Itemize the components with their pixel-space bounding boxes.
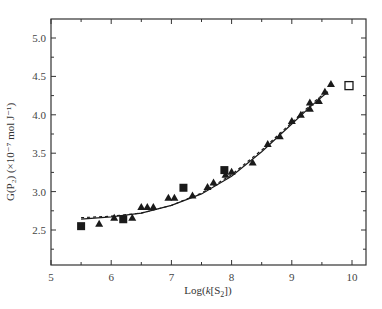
dashed-fit-line: [81, 90, 328, 218]
plot-border: [51, 19, 366, 265]
triangle-marker: [95, 220, 103, 227]
fit-line: [81, 92, 328, 219]
x-axis-title: Log(k[S2]): [184, 284, 232, 299]
filled-square-marker: [77, 222, 85, 230]
filled-square-marker: [119, 215, 127, 223]
x-tick-label: 7: [169, 271, 175, 283]
filled-square-marker: [179, 184, 187, 192]
x-tick-label: 6: [108, 271, 114, 283]
triangle-marker: [306, 99, 314, 106]
fit-curves: [81, 90, 328, 219]
chart: 56789102.53.03.54.04.55.0 Log(k[S2]) G(P…: [0, 0, 382, 309]
triangle-marker: [228, 168, 236, 175]
y-tick-label: 5.0: [32, 32, 46, 44]
y-tick-label: 4.0: [32, 109, 46, 121]
triangle-marker: [210, 178, 218, 185]
axis-ticks: 56789102.53.03.54.04.55.0: [32, 19, 366, 283]
x-tick-label: 5: [48, 271, 54, 283]
triangle-marker: [170, 194, 178, 201]
triangle-marker: [149, 203, 157, 210]
data-points: [77, 80, 353, 230]
open-square-marker: [345, 82, 353, 90]
plot-frame: [51, 19, 366, 265]
y-tick-label: 3.0: [32, 186, 46, 198]
y-axis-title: G(P₂) (×10⁻⁷ mol J⁻¹): [4, 103, 17, 201]
x-tick-label: 10: [347, 271, 359, 283]
x-tick-label: 8: [229, 271, 235, 283]
x-tick-label: 9: [289, 271, 295, 283]
triangle-marker: [327, 80, 335, 87]
triangle-marker: [321, 88, 329, 95]
y-tick-label: 3.5: [32, 147, 46, 159]
triangle-marker: [276, 132, 284, 139]
y-tick-label: 4.5: [32, 70, 46, 82]
triangle-marker: [188, 191, 196, 198]
filled-square-marker: [220, 166, 228, 174]
y-tick-label: 2.5: [32, 224, 46, 236]
